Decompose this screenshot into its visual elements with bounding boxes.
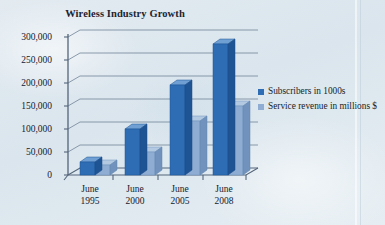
- x-category-label: June 1995: [67, 183, 113, 207]
- x-category-label: June 2000: [112, 183, 158, 207]
- x-category-line2: 2000: [112, 195, 158, 207]
- x-category-line1: June: [201, 183, 247, 195]
- x-category-line2: 2005: [157, 195, 203, 207]
- x-category-line1: June: [67, 183, 113, 195]
- x-category-line1: June: [157, 183, 203, 195]
- x-axis-labels: June 1995 June 2000 June 2005 June 2008: [0, 0, 385, 225]
- x-category-line2: 1995: [67, 195, 113, 207]
- x-category-label: June 2005: [157, 183, 203, 207]
- x-category-label: June 2008: [201, 183, 247, 207]
- x-category-line1: June: [112, 183, 158, 195]
- bar-chart: Wireless Industry Growth 300,000 250,000…: [0, 0, 385, 225]
- x-category-line2: 2008: [201, 195, 247, 207]
